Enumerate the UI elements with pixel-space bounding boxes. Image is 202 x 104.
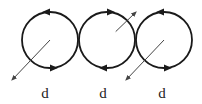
rotation-arrowhead-top [42, 9, 50, 16]
loop-label-2: d [99, 85, 107, 101]
rotation-arrowhead-top [107, 9, 115, 16]
rotation-arrowhead-bottom [50, 65, 58, 72]
loop-diagram: d d d [0, 0, 202, 104]
rotation-arrowhead-top [156, 9, 164, 16]
loop-label-1: d [41, 85, 49, 101]
dipole-arrow [12, 40, 50, 80]
loop-1 [12, 9, 78, 81]
loop-3 [126, 9, 192, 81]
rotation-arrowhead-bottom [99, 65, 107, 72]
loop-2 [79, 9, 136, 72]
rotation-arrowhead-bottom [164, 65, 172, 72]
dipole-arrow [126, 40, 164, 80]
loop-label-3: d [158, 85, 166, 101]
